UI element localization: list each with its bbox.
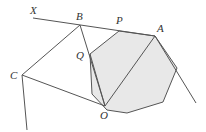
label-c: C [10, 69, 18, 81]
label-p: P [115, 14, 123, 26]
label-q: Q [76, 49, 84, 61]
geometry-diagram: X B P A Q C O [0, 0, 206, 132]
line-xa [33, 18, 155, 36]
label-o: O [100, 109, 108, 121]
line-cb [22, 25, 80, 75]
label-a: A [156, 22, 164, 34]
label-b: B [76, 10, 83, 22]
ray-c [22, 75, 27, 130]
label-x: X [29, 4, 38, 16]
